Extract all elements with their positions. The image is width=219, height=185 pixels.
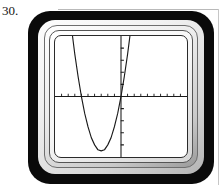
page-rule-right	[218, 9, 219, 185]
parabola-curve	[64, 36, 130, 151]
calculator-bezel-middle	[44, 25, 198, 168]
calculator-bezel-inner	[49, 30, 193, 163]
calculator-screen[interactable]	[54, 35, 188, 158]
problem-number-label: 30.	[2, 4, 18, 18]
calculator-body	[28, 11, 214, 184]
page-rule-top	[58, 9, 219, 10]
calculator-bezel-outer	[38, 20, 204, 174]
graph-plot	[55, 36, 187, 157]
